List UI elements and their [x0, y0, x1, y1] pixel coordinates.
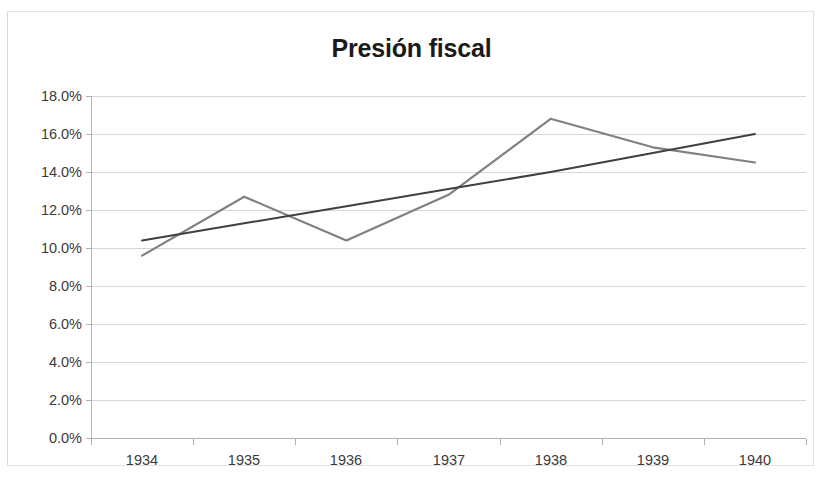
- x-axis-tick-label: 1940: [739, 452, 771, 468]
- x-axis-tick-label: 1937: [433, 452, 465, 468]
- x-axis-tick: [806, 439, 807, 445]
- x-axis-labels: 1934193519361937193819391940: [91, 452, 807, 476]
- y-axis-tick-label: 14.0%: [20, 164, 82, 180]
- chart-series-svg: [91, 96, 806, 438]
- y-axis-tick-label: 0.0%: [20, 430, 82, 446]
- x-axis-tick-label: 1935: [228, 452, 260, 468]
- y-axis-tick: [86, 362, 92, 363]
- x-axis-tick-label: 1936: [330, 452, 362, 468]
- x-axis-tick: [91, 439, 92, 445]
- chart-frame: Presión fiscal 18.0%16.0%14.0%12.0%10.0%…: [7, 11, 814, 466]
- x-axis-tick-label: 1938: [535, 452, 567, 468]
- y-axis-tick-label: 18.0%: [20, 88, 82, 104]
- y-axis-tick: [86, 248, 92, 249]
- trendline-series: [142, 134, 755, 240]
- y-axis-tick-label: 2.0%: [20, 392, 82, 408]
- y-axis-tick-label: 6.0%: [20, 316, 82, 332]
- x-axis-tick: [602, 439, 603, 445]
- y-axis-tick: [86, 172, 92, 173]
- y-axis-tick: [86, 210, 92, 211]
- x-axis-tick: [500, 439, 501, 445]
- y-axis-labels: 18.0%16.0%14.0%12.0%10.0%8.0%6.0%4.0%2.0…: [16, 96, 82, 438]
- x-axis-tick: [193, 439, 194, 445]
- y-axis-tick-label: 8.0%: [20, 278, 82, 294]
- y-axis-tick-label: 4.0%: [20, 354, 82, 370]
- y-axis-tick: [86, 96, 92, 97]
- y-axis-tick-label: 16.0%: [20, 126, 82, 142]
- y-axis-tick-label: 10.0%: [20, 240, 82, 256]
- x-axis-tick-label: 1939: [637, 452, 669, 468]
- y-axis-tick: [86, 324, 92, 325]
- y-axis-tick: [86, 438, 92, 439]
- x-axis-tick-label: 1934: [126, 452, 158, 468]
- x-axis-tick: [295, 439, 296, 445]
- y-axis-tick: [86, 286, 92, 287]
- x-axis-tick: [704, 439, 705, 445]
- y-axis-tick: [86, 400, 92, 401]
- data-series-line: [142, 119, 755, 256]
- x-axis-tick: [397, 439, 398, 445]
- plot-area: [91, 96, 806, 438]
- x-axis-ticks: [91, 439, 807, 446]
- y-axis-tick: [86, 134, 92, 135]
- y-axis-tick-label: 12.0%: [20, 202, 82, 218]
- chart-title: Presión fiscal: [8, 34, 815, 63]
